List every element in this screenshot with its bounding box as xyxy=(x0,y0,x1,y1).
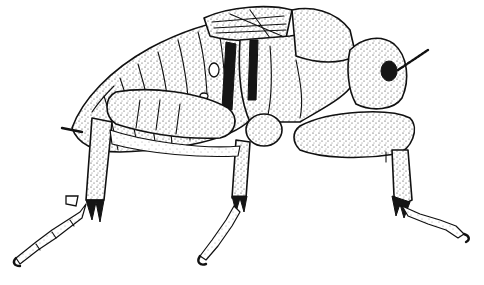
head xyxy=(348,38,428,108)
eye-icon xyxy=(381,61,397,81)
wing-pad xyxy=(204,7,292,41)
fore-leg xyxy=(294,112,469,242)
insect-nymph-illustration xyxy=(0,0,484,285)
hind-leg xyxy=(14,90,235,266)
